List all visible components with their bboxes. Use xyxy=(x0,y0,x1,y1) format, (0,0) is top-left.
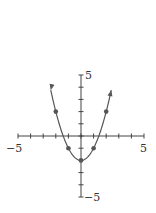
data-point xyxy=(66,146,71,151)
data-point xyxy=(104,109,109,114)
data-point xyxy=(54,109,59,114)
axes xyxy=(18,75,144,197)
x-min-label: −5 xyxy=(6,142,22,155)
parabola-plot: −5 5 5 −5 xyxy=(0,0,156,213)
x-max-label: 5 xyxy=(140,142,147,155)
data-point xyxy=(91,146,96,151)
arrow-icon xyxy=(108,90,113,96)
y-max-label: 5 xyxy=(85,69,92,82)
y-min-label: −5 xyxy=(84,191,100,204)
data-point xyxy=(79,158,84,163)
arrow-icon xyxy=(50,84,55,90)
